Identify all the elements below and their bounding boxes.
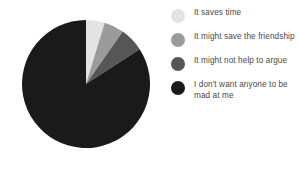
legend-item[interactable]: It might not help to argue xyxy=(171,56,299,71)
legend-swatch-icon xyxy=(171,33,185,47)
legend-item[interactable]: It might save the friendship xyxy=(171,32,299,47)
pie-svg xyxy=(22,20,150,148)
legend-item[interactable]: It saves time xyxy=(171,8,299,23)
pie-chart-graphic xyxy=(22,20,150,148)
pie-chart-figure: It saves time It might save the friendsh… xyxy=(0,0,299,171)
legend-item-label: It saves time xyxy=(194,8,241,19)
legend-swatch-icon xyxy=(171,57,185,71)
chart-legend: It saves time It might save the friendsh… xyxy=(171,8,299,110)
legend-item-label: I don't want anyone to be mad at me xyxy=(194,80,297,101)
legend-swatch-icon xyxy=(171,81,185,95)
legend-item[interactable]: I don't want anyone to be mad at me xyxy=(171,80,299,101)
pie-slice-group xyxy=(22,20,150,148)
legend-item-label: It might save the friendship xyxy=(194,32,295,43)
legend-swatch-icon xyxy=(171,9,185,23)
legend-item-label: It might not help to argue xyxy=(194,56,287,67)
